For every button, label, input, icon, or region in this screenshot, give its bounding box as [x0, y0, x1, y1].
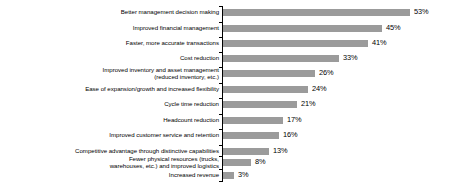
axis-tick — [219, 67, 223, 68]
bar-value-label: 16% — [283, 130, 298, 139]
axis-tick — [219, 52, 223, 53]
bar — [223, 9, 410, 16]
axis-tick — [219, 22, 223, 23]
bar — [223, 159, 251, 166]
axis-tick-end — [219, 181, 223, 182]
category-label: Increased revenue — [169, 171, 219, 178]
bar — [223, 132, 279, 139]
bar — [223, 86, 308, 93]
bar — [223, 101, 297, 108]
category-label: Improved inventory and asset management … — [103, 66, 219, 81]
bar-value-label: 33% — [343, 53, 358, 62]
bar-value-label: 41% — [372, 38, 387, 47]
category-label: Cost reduction — [180, 54, 219, 61]
category-label: Fewer physical resources (trucks, wareho… — [110, 155, 219, 170]
bar-chart: Better management decision making53%Impr… — [0, 0, 451, 189]
bar-value-label: 26% — [319, 68, 334, 77]
axis-tick — [219, 169, 223, 170]
category-label: Cycle time reduction — [164, 100, 219, 107]
bar — [223, 40, 368, 47]
bar — [223, 172, 234, 179]
axis-tick — [219, 6, 223, 7]
bar-value-label: 17% — [287, 115, 302, 124]
axis-tick — [219, 129, 223, 130]
bar-value-label: 24% — [312, 84, 327, 93]
axis-tick — [219, 98, 223, 99]
bar — [223, 148, 269, 155]
category-label: Better management decision making — [121, 8, 219, 15]
bar-value-label: 13% — [273, 146, 288, 155]
category-label: Ease of expansion/growth and increased f… — [85, 85, 219, 92]
category-label: Faster, more accurate transactions — [126, 39, 219, 46]
plot-area: Better management decision making53%Impr… — [0, 0, 451, 189]
axis-tick — [219, 83, 223, 84]
axis-tick — [219, 114, 223, 115]
category-label: Improved financial management — [133, 24, 219, 31]
category-label: Headcount reduction — [163, 116, 219, 123]
bar — [223, 117, 283, 124]
axis-tick — [219, 37, 223, 38]
bar-value-label: 3% — [238, 170, 249, 179]
bar-value-label: 53% — [414, 7, 429, 16]
category-label: Competitive advantage through distinctiv… — [75, 147, 219, 154]
bar-value-label: 8% — [255, 157, 266, 166]
bar — [223, 70, 315, 77]
bar — [223, 55, 339, 62]
category-label: Improved customer service and retention — [109, 131, 219, 138]
bar-value-label: 45% — [386, 23, 401, 32]
axis-tick — [219, 145, 223, 146]
bar — [223, 25, 382, 32]
axis-tick — [219, 156, 223, 157]
bar-value-label: 21% — [301, 99, 316, 108]
